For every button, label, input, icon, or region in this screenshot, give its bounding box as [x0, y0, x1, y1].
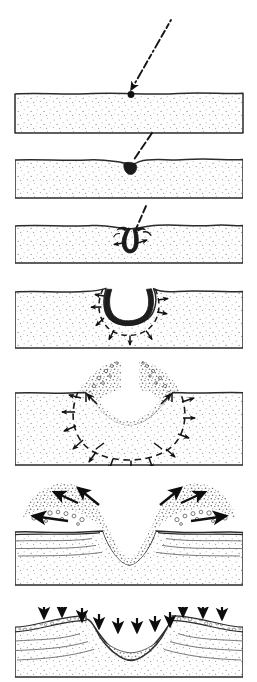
impact-crater-figure: Impact crater formation sequence [0, 0, 257, 682]
panel-penetration-clip [15, 159, 243, 198]
impactor-body-dot [128, 91, 135, 98]
figure-canvas [0, 0, 257, 682]
target-surface-1 [15, 93, 243, 133]
target-block-1 [15, 93, 243, 133]
panel-jetting-clip [15, 225, 243, 263]
